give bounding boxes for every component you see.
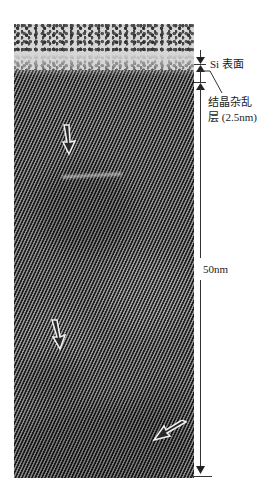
arrow-down-icon bbox=[196, 466, 205, 474]
arrow-defect-upper-icon bbox=[60, 124, 78, 156]
arrow-down-icon bbox=[196, 57, 205, 64]
depth-label: 50nm bbox=[203, 263, 228, 276]
disorder-layer-label-line1: 结晶杂乱 bbox=[208, 96, 252, 109]
arrow-defect-middle-icon bbox=[50, 319, 68, 351]
surface-transition bbox=[14, 54, 194, 76]
disorder-layer-label-line2: 层 (2.5nm) bbox=[208, 111, 257, 124]
lattice-fringes bbox=[14, 24, 194, 478]
surface-label: Si 表面 bbox=[210, 58, 244, 71]
arrow-defect-lower-icon bbox=[152, 420, 188, 444]
depth-scale-line-lower bbox=[200, 280, 201, 468]
depth-scale-line-upper bbox=[200, 88, 201, 258]
tem-micrograph bbox=[14, 24, 194, 478]
bottom-tick bbox=[190, 476, 212, 477]
leader-line bbox=[200, 70, 225, 94]
